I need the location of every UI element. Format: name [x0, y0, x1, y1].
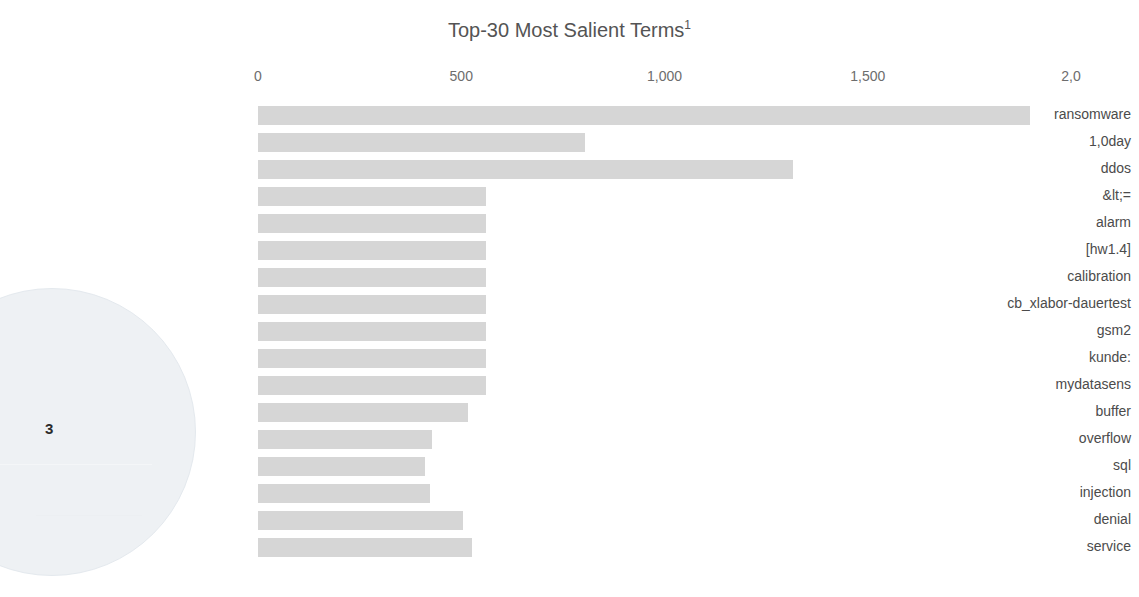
bar-row[interactable]: ransomware — [0, 104, 1139, 131]
bar-row[interactable]: alarm — [0, 212, 1139, 239]
x-axis-tick-label: 0 — [254, 68, 262, 84]
x-axis-tick-label: 500 — [450, 68, 473, 84]
term-label[interactable]: overflow — [891, 430, 1139, 446]
term-label[interactable]: gsm2 — [891, 322, 1139, 338]
x-axis-tick-label: 2,0 — [1061, 68, 1080, 84]
term-frequency-bar[interactable] — [258, 214, 486, 233]
bar-row[interactable]: 1,0day — [0, 131, 1139, 158]
bar-row[interactable]: [hw1.4] — [0, 239, 1139, 266]
term-frequency-bar[interactable] — [258, 241, 486, 260]
term-label[interactable]: alarm — [891, 214, 1139, 230]
x-axis: 05001,0001,5002,0 — [0, 68, 1139, 90]
term-frequency-bar[interactable] — [258, 295, 486, 314]
bar-row[interactable]: buffer — [0, 401, 1139, 428]
term-frequency-bar[interactable] — [258, 322, 486, 341]
bar-row[interactable]: denial — [0, 509, 1139, 536]
bar-row[interactable]: sql — [0, 455, 1139, 482]
term-label[interactable]: injection — [891, 484, 1139, 500]
term-label[interactable]: ddos — [891, 160, 1139, 176]
term-frequency-bar[interactable] — [258, 349, 486, 368]
bar-row[interactable]: injection — [0, 482, 1139, 509]
bar-row[interactable]: overflow — [0, 428, 1139, 455]
term-label[interactable]: [hw1.4] — [891, 241, 1139, 257]
bar-rows: ransomware1,0dayddos&lt;=alarm[hw1.4]cal… — [0, 104, 1139, 563]
term-label[interactable]: calibration — [891, 268, 1139, 284]
bar-row[interactable]: ddos — [0, 158, 1139, 185]
term-label[interactable]: cb_xlabor-dauertest — [891, 295, 1139, 311]
term-frequency-bar[interactable] — [258, 160, 793, 179]
page-title: Top-30 Most Salient Terms1 — [0, 19, 1139, 42]
bar-row[interactable]: gsm2 — [0, 320, 1139, 347]
chart-title-footnote-marker: 1 — [684, 18, 691, 32]
term-frequency-bar[interactable] — [258, 133, 585, 152]
term-frequency-bar[interactable] — [258, 511, 463, 530]
term-label[interactable]: 1,0day — [891, 133, 1139, 149]
term-frequency-bar[interactable] — [258, 484, 430, 503]
term-frequency-bar[interactable] — [258, 187, 486, 206]
term-frequency-bar[interactable] — [258, 376, 486, 395]
bar-row[interactable]: service — [0, 536, 1139, 563]
chart-title-text: Top-30 Most Salient Terms — [448, 19, 684, 41]
bar-row[interactable]: cb_xlabor-dauertest — [0, 293, 1139, 320]
saliency-chart-panel: 3 Top-30 Most Salient Terms1 05001,0001,… — [0, 0, 1139, 597]
term-label[interactable]: buffer — [891, 403, 1139, 419]
term-label[interactable]: denial — [891, 511, 1139, 527]
term-frequency-bar[interactable] — [258, 430, 432, 449]
term-frequency-bar[interactable] — [258, 457, 425, 476]
x-axis-tick-label: 1,000 — [647, 68, 682, 84]
term-label[interactable]: &lt;= — [891, 187, 1139, 203]
x-axis-tick-label: 1,500 — [850, 68, 885, 84]
term-label[interactable]: kunde: — [891, 349, 1139, 365]
term-label[interactable]: mydatasens — [891, 376, 1139, 392]
bar-row[interactable]: mydatasens — [0, 374, 1139, 401]
bar-row[interactable]: &lt;= — [0, 185, 1139, 212]
term-label[interactable]: service — [891, 538, 1139, 554]
term-label[interactable]: sql — [891, 457, 1139, 473]
bar-row[interactable]: kunde: — [0, 347, 1139, 374]
bar-row[interactable]: calibration — [0, 266, 1139, 293]
term-frequency-bar[interactable] — [258, 106, 1030, 125]
term-frequency-bar[interactable] — [258, 268, 486, 287]
term-frequency-bar[interactable] — [258, 403, 468, 422]
term-frequency-bar[interactable] — [258, 538, 472, 557]
